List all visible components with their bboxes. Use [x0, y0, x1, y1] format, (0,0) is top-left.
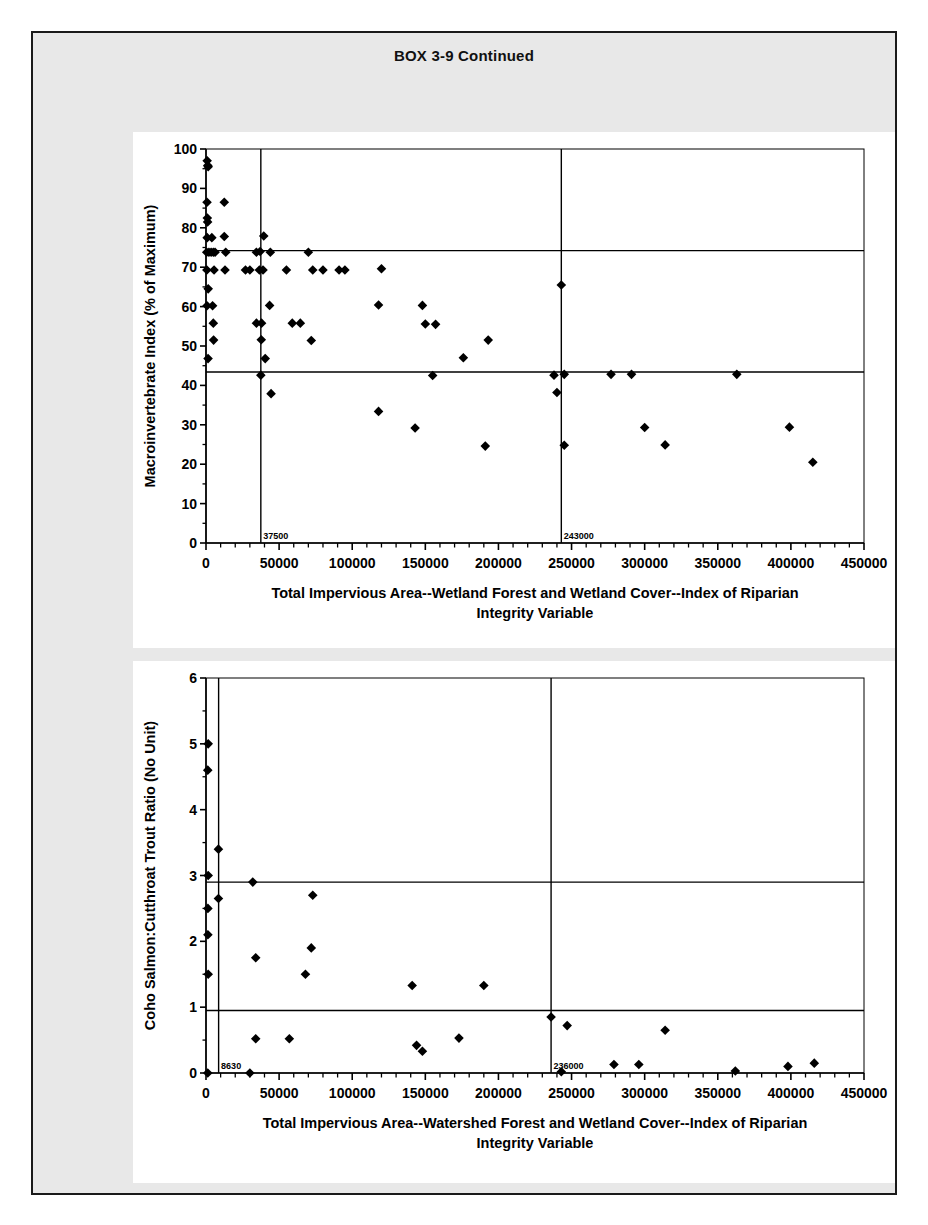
- x-tick-label: 0: [202, 555, 210, 571]
- y-tick-label: 50: [181, 338, 197, 354]
- y-tick-label: 1: [189, 999, 197, 1015]
- y-tick-label: 4: [189, 802, 197, 818]
- y-tick-label: 90: [181, 180, 197, 196]
- reference-line-label: 8630: [221, 1061, 241, 1071]
- chart-panel-macroinvertebrate: 3750024300001020304050607080901000500001…: [133, 132, 895, 648]
- y-tick-label: 6: [189, 670, 197, 686]
- x-tick-label: 400000: [768, 555, 815, 571]
- x-tick-label: 150000: [402, 1085, 449, 1101]
- y-tick-label: 0: [189, 1065, 197, 1081]
- y-tick-label: 3: [189, 868, 197, 884]
- x-tick-label: 0: [202, 1085, 210, 1101]
- chart-svg: 3750024300001020304050607080901000500001…: [133, 132, 895, 648]
- y-tick-label: 20: [181, 456, 197, 472]
- y-tick-label: 30: [181, 417, 197, 433]
- x-axis-title-line1: Total Impervious Area--Wetland Forest an…: [271, 585, 798, 601]
- y-tick-label: 5: [189, 736, 197, 752]
- x-tick-label: 450000: [841, 555, 888, 571]
- reference-line-label: 236000: [554, 1061, 584, 1071]
- y-tick-label: 40: [181, 377, 197, 393]
- chart-svg: 8630236000012345605000010000015000020000…: [133, 661, 895, 1183]
- x-tick-label: 200000: [475, 1085, 522, 1101]
- box-title: BOX 3-9 Continued: [33, 47, 895, 64]
- page-root: BOX 3-9 Continued 3750024300001020304050…: [0, 0, 928, 1225]
- y-tick-label: 2: [189, 933, 197, 949]
- scatter-chart-macroinvertebrate: 3750024300001020304050607080901000500001…: [133, 132, 895, 648]
- x-tick-label: 300000: [621, 1085, 668, 1101]
- x-axis-title-line2: Integrity Variable: [477, 605, 594, 621]
- y-tick-label: 100: [174, 141, 198, 157]
- plot-frame: [206, 678, 864, 1073]
- y-tick-label: 70: [181, 259, 197, 275]
- x-tick-label: 350000: [694, 1085, 741, 1101]
- x-tick-label: 200000: [475, 555, 522, 571]
- y-tick-label: 10: [181, 496, 197, 512]
- x-tick-label: 250000: [548, 1085, 595, 1101]
- y-tick-label: 0: [189, 535, 197, 551]
- y-axis-title: Coho Salmon:Cutthroat Trout Ratio (No Un…: [142, 721, 158, 1030]
- y-axis-title: Macroinvertebrate Index (% of Maximum): [142, 204, 158, 487]
- scatter-chart-coho-cutthroat: 8630236000012345605000010000015000020000…: [133, 661, 895, 1183]
- x-tick-label: 250000: [548, 555, 595, 571]
- x-axis-title-line2: Integrity Variable: [477, 1135, 594, 1151]
- plot-frame: [206, 149, 864, 543]
- x-tick-label: 400000: [768, 1085, 815, 1101]
- x-tick-label: 450000: [841, 1085, 888, 1101]
- x-axis-title-line1: Total Impervious Area--Watershed Forest …: [263, 1115, 808, 1131]
- y-tick-label: 80: [181, 220, 197, 236]
- x-tick-label: 50000: [260, 1085, 299, 1101]
- x-tick-label: 50000: [260, 555, 299, 571]
- y-tick-label: 60: [181, 299, 197, 315]
- x-tick-label: 300000: [621, 555, 668, 571]
- x-tick-label: 100000: [329, 555, 376, 571]
- box-frame: BOX 3-9 Continued 3750024300001020304050…: [31, 31, 897, 1195]
- reference-line-label: 37500: [263, 531, 288, 541]
- x-tick-label: 350000: [694, 555, 741, 571]
- chart-panel-coho-cutthroat: 8630236000012345605000010000015000020000…: [133, 661, 895, 1183]
- x-tick-label: 100000: [329, 1085, 376, 1101]
- reference-line-label: 243000: [564, 531, 594, 541]
- x-tick-label: 150000: [402, 555, 449, 571]
